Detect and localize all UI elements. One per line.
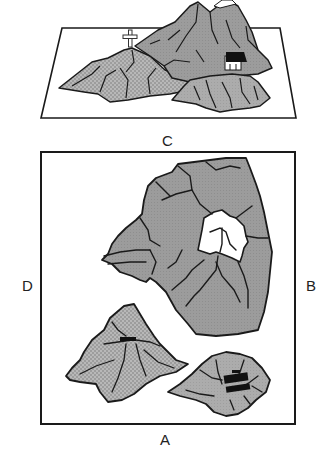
perspective-view <box>41 0 296 118</box>
three-mountains-figure <box>0 0 326 465</box>
side-label-d: D <box>22 278 33 293</box>
cross-icon-plan <box>120 337 136 341</box>
viewpoint-label-c: C <box>162 133 173 148</box>
side-label-b: B <box>306 278 316 293</box>
side-label-a: A <box>160 432 170 447</box>
plan-view <box>41 152 295 424</box>
